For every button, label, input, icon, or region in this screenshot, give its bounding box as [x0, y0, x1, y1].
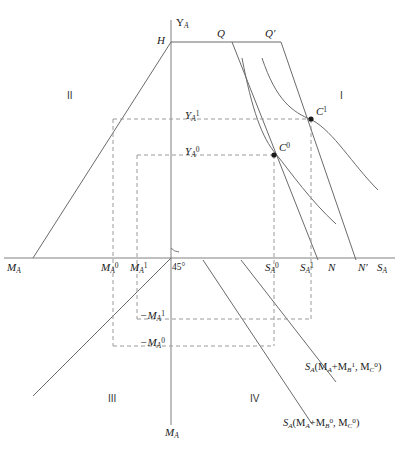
- point-C0-marker: [271, 152, 276, 157]
- point-label-C1: C1: [316, 106, 327, 117]
- quadrant-label-I: I: [340, 91, 343, 101]
- quadrant-II-line: [33, 42, 171, 258]
- quadrant-label-II: II: [67, 91, 73, 101]
- angle-label-45: 45°: [172, 263, 185, 273]
- tick-label-YA1: YA1: [185, 110, 199, 123]
- tick-label-MA1: MA1: [130, 262, 147, 275]
- indifference-curves: [242, 58, 378, 224]
- point-label-C0: C0: [279, 142, 290, 153]
- tick-label-neg-MA0: −MA0: [140, 337, 165, 350]
- equilibrium-points: [271, 116, 313, 157]
- angle-arc: [171, 248, 179, 252]
- axis-label-MA-left: MA: [7, 262, 21, 275]
- tick-label-SA0: SA0: [265, 262, 279, 275]
- point-label-Q: Q: [217, 28, 225, 39]
- tick-label-MA0: MA0: [101, 262, 118, 275]
- point-label-H: H: [157, 35, 165, 46]
- point-label-N-prime: N′: [358, 262, 368, 273]
- axis-label-YA: YA: [176, 17, 189, 30]
- forty-five-degree-line: [33, 258, 171, 396]
- tick-label-SA1: SA1: [300, 262, 314, 275]
- tick-label-neg-MA1: −MA1: [140, 310, 165, 323]
- curve-label-spending-lower: SA(MA+MB0, MC0): [283, 418, 359, 430]
- axis-label-MA-bottom: MA: [165, 427, 179, 440]
- quadrant-label-III: III: [108, 394, 116, 404]
- tick-label-YA0: YA0: [185, 146, 199, 159]
- quadrant-III-line: [33, 258, 171, 396]
- quadrant-label-IV: IV: [250, 394, 259, 404]
- indifference-curve-1: [262, 58, 378, 190]
- forty-five-arc: [171, 248, 179, 252]
- transformation-line-II: [33, 42, 171, 258]
- quadrant-IV-spending-lines: [203, 260, 336, 424]
- point-label-Q-prime: Q′: [265, 28, 275, 39]
- axis-label-SA-right: SA: [377, 262, 387, 275]
- curve-label-spending-upper: SA(MA+MB1, MC0): [305, 362, 381, 374]
- diagram-svg: [0, 0, 411, 459]
- point-C1-marker: [308, 116, 313, 121]
- budget-lines: [232, 42, 356, 260]
- figure-canvas: YA H Q Q′ C0 C1 YA1 YA0 MA MA0 MA1 45° S…: [0, 0, 411, 459]
- point-label-N: N: [328, 262, 335, 273]
